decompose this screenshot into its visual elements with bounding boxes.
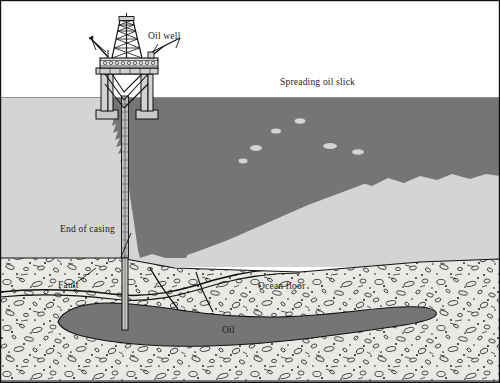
sky-region [0,0,500,98]
oil-well-diagram: Oil well Spreading oil slick End of casi… [0,0,500,383]
diagram-canvas: Oil well Spreading oil slick End of casi… [0,0,500,383]
label-oil-well: Oil well [148,31,181,41]
label-ocean-floor: Ocean floor [258,281,306,291]
rig-lower-deck [96,68,158,74]
label-fault: Fault [58,280,79,290]
rig-main-deck [100,58,158,68]
label-spreading-oil-slick: Spreading oil slick [280,77,355,87]
well-casing [122,96,129,330]
label-oil: Oil [222,325,235,335]
label-end-of-casing: End of casing [60,224,115,234]
